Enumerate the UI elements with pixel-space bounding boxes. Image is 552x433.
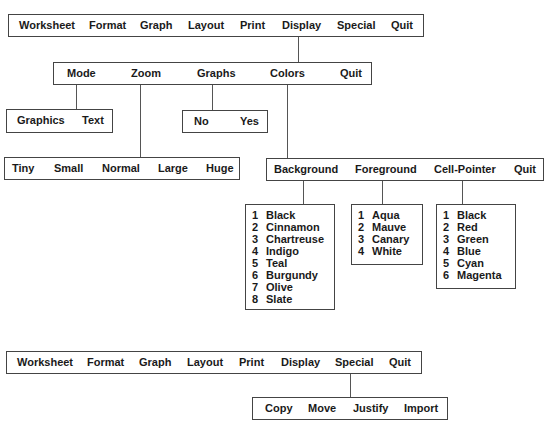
item-label: Canary (372, 233, 409, 245)
item-label: Black (266, 209, 295, 221)
list-item[interactable]: 1Black (246, 209, 334, 221)
menu-item-print[interactable]: Print (239, 356, 264, 368)
connector-graphs (212, 85, 213, 110)
item-number: 1 (437, 209, 457, 221)
cell-pointer-color-list: 1Black 2Red 3Green 4Blue 5Cyan 6Magenta (436, 204, 516, 289)
menu-item-graphics[interactable]: Graphics (17, 114, 65, 126)
item-label: Magenta (457, 269, 502, 281)
list-item[interactable]: 1Black (437, 209, 515, 221)
menu-item-special[interactable]: Special (337, 19, 376, 31)
item-number: 3 (437, 233, 457, 245)
menu-item-graph[interactable]: Graph (139, 356, 171, 368)
menu-item-move[interactable]: Move (308, 402, 336, 414)
menu-item-print[interactable]: Print (240, 19, 265, 31)
list-item[interactable]: 2Mauve (352, 221, 422, 233)
menu-item-quit[interactable]: Quit (514, 163, 536, 175)
menu-item-special[interactable]: Special (335, 356, 374, 368)
menu-item-import[interactable]: Import (404, 402, 438, 414)
menu-item-graphs[interactable]: Graphs (197, 67, 236, 79)
connector-cell-pointer (462, 181, 463, 204)
list-item[interactable]: 3Chartreuse (246, 233, 334, 245)
menu-item-quit[interactable]: Quit (389, 356, 411, 368)
list-item[interactable]: 6Burgundy (246, 269, 334, 281)
item-number: 2 (437, 221, 457, 233)
menu-item-small[interactable]: Small (54, 162, 83, 174)
item-number: 5 (246, 257, 266, 269)
menu-item-quit[interactable]: Quit (391, 19, 413, 31)
menu-item-copy[interactable]: Copy (265, 402, 293, 414)
menu-item-huge[interactable]: Huge (206, 162, 234, 174)
list-item[interactable]: 6Magenta (437, 269, 515, 281)
item-label: Black (457, 209, 486, 221)
item-label: Slate (266, 293, 292, 305)
main-menu-top: Worksheet Format Graph Layout Print Disp… (8, 14, 424, 37)
item-label: Teal (266, 257, 287, 269)
menu-item-justify[interactable]: Justify (353, 402, 388, 414)
graphs-menu: No Yes (182, 110, 268, 133)
menu-item-colors[interactable]: Colors (270, 67, 305, 79)
menu-item-worksheet[interactable]: Worksheet (19, 19, 75, 31)
item-number: 4 (437, 245, 457, 257)
item-label: Cinnamon (266, 221, 320, 233)
list-item[interactable]: 3Green (437, 233, 515, 245)
menu-item-text[interactable]: Text (82, 114, 104, 126)
menu-item-graph[interactable]: Graph (140, 19, 172, 31)
menu-item-yes[interactable]: Yes (240, 115, 259, 127)
menu-item-zoom[interactable]: Zoom (131, 67, 161, 79)
special-menu: Copy Move Justify Import (252, 397, 448, 420)
list-item[interactable]: 5Teal (246, 257, 334, 269)
list-item[interactable]: 2Cinnamon (246, 221, 334, 233)
menu-item-layout[interactable]: Layout (187, 356, 223, 368)
menu-item-cell-pointer[interactable]: Cell-Pointer (434, 163, 496, 175)
item-label: Burgundy (266, 269, 318, 281)
connector-background (303, 181, 304, 204)
menu-item-large[interactable]: Large (158, 162, 188, 174)
list-item[interactable]: 4Blue (437, 245, 515, 257)
list-item[interactable]: 8Slate (246, 293, 334, 305)
list-item[interactable]: 3Canary (352, 233, 422, 245)
item-number: 1 (246, 209, 266, 221)
item-number: 6 (437, 269, 457, 281)
menu-item-normal[interactable]: Normal (102, 162, 140, 174)
colors-menu: Background Foreground Cell-Pointer Quit (266, 158, 544, 181)
menu-item-display[interactable]: Display (281, 356, 320, 368)
menu-item-no[interactable]: No (194, 115, 209, 127)
list-item[interactable]: 2Red (437, 221, 515, 233)
item-number: 3 (352, 233, 372, 245)
menu-item-worksheet[interactable]: Worksheet (17, 356, 73, 368)
background-color-list: 1Black 2Cinnamon 3Chartreuse 4Indigo 5Te… (245, 204, 335, 310)
list-item[interactable]: 1Aqua (352, 209, 422, 221)
connector-special (350, 374, 351, 398)
list-item[interactable]: 5Cyan (437, 257, 515, 269)
item-label: Aqua (372, 209, 400, 221)
item-label: Chartreuse (266, 233, 324, 245)
menu-item-format[interactable]: Format (87, 356, 124, 368)
item-label: Indigo (266, 245, 299, 257)
menu-item-foreground[interactable]: Foreground (355, 163, 417, 175)
item-number: 1 (352, 209, 372, 221)
item-number: 2 (352, 221, 372, 233)
list-item[interactable]: 4Indigo (246, 245, 334, 257)
menu-item-background[interactable]: Background (274, 163, 338, 175)
menu-item-mode[interactable]: Mode (67, 67, 96, 79)
item-number: 3 (246, 233, 266, 245)
list-item[interactable]: 4White (352, 245, 422, 257)
item-number: 4 (352, 245, 372, 257)
item-label: Olive (266, 281, 293, 293)
item-number: 7 (246, 281, 266, 293)
connector-zoom (140, 85, 141, 157)
list-item[interactable]: 7Olive (246, 281, 334, 293)
menu-item-format[interactable]: Format (89, 19, 126, 31)
menu-item-quit[interactable]: Quit (340, 67, 362, 79)
mode-menu: Graphics Text (6, 109, 113, 133)
menu-item-display[interactable]: Display (282, 19, 321, 31)
menu-item-layout[interactable]: Layout (188, 19, 224, 31)
item-label: Cyan (457, 257, 484, 269)
item-number: 2 (246, 221, 266, 233)
connector-colors (287, 85, 288, 158)
connector-display (298, 37, 299, 62)
connector-foreground (382, 181, 383, 204)
item-number: 6 (246, 269, 266, 281)
menu-item-tiny[interactable]: Tiny (12, 162, 34, 174)
item-label: Mauve (372, 221, 406, 233)
